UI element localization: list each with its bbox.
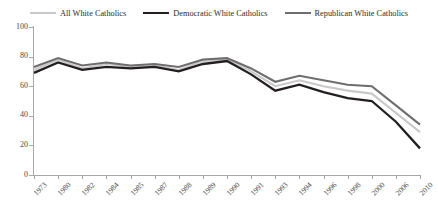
y-axis-line	[33, 26, 34, 176]
y-tick-label: 60	[20, 81, 28, 90]
legend-item-0[interactable]: All White Catholics	[30, 9, 126, 18]
y-tick: 40	[0, 116, 34, 117]
x-tick-mark	[275, 175, 276, 179]
y-tick-mark	[29, 86, 34, 87]
x-tick-mark	[131, 175, 132, 179]
y-tick: 20	[0, 145, 34, 146]
x-tick-mark	[203, 175, 204, 179]
legend-item-1[interactable]: Democratic White Catholics	[143, 9, 267, 18]
y-tick: 0	[0, 175, 34, 176]
legend-swatch-icon	[285, 12, 311, 14]
x-tick-mark	[324, 175, 325, 179]
x-tick-mark	[82, 175, 83, 179]
x-tick-mark	[251, 175, 252, 179]
series-line-0	[34, 60, 420, 133]
x-tick-mark	[179, 175, 180, 179]
x-tick-mark	[396, 175, 397, 179]
y-tick-mark	[29, 27, 34, 28]
legend-label: Democratic White Catholics	[173, 9, 267, 18]
legend-swatch-icon	[143, 12, 169, 14]
y-tick-label: 100	[16, 22, 28, 31]
x-tick-mark	[34, 175, 35, 179]
x-tick-mark	[227, 175, 228, 179]
y-tick-label: 80	[20, 51, 28, 60]
x-tick-mark	[372, 175, 373, 179]
y-tick: 100	[0, 27, 34, 28]
x-tick-mark	[155, 175, 156, 179]
y-tick: 80	[0, 57, 34, 58]
y-tick-label: 0	[24, 170, 28, 179]
legend-swatch-icon	[30, 12, 56, 14]
x-tick-mark	[106, 175, 107, 179]
legend-label: All White Catholics	[60, 9, 126, 18]
x-tick-mark	[299, 175, 300, 179]
y-tick-mark	[29, 116, 34, 117]
y-tick-label: 40	[20, 110, 28, 119]
y-tick: 60	[0, 86, 34, 87]
y-tick-mark	[29, 57, 34, 58]
chart-container: All White CatholicsDemocratic White Cath…	[0, 0, 438, 210]
series-line-2	[34, 58, 420, 125]
x-tick-mark	[58, 175, 59, 179]
legend-item-2[interactable]: Republican White Catholics	[285, 9, 408, 18]
y-tick-label: 20	[20, 140, 28, 149]
chart-legend: All White CatholicsDemocratic White Cath…	[0, 6, 438, 20]
legend-label: Republican White Catholics	[315, 9, 408, 18]
y-tick-mark	[29, 145, 34, 146]
series-line-1	[34, 61, 420, 148]
x-tick-mark	[348, 175, 349, 179]
x-tick-mark	[420, 175, 421, 179]
